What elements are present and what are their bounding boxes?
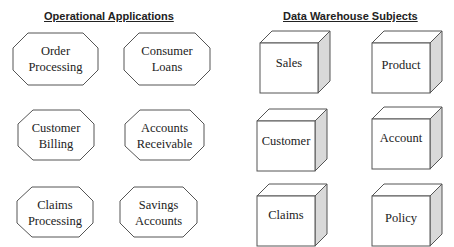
cube-product: Product bbox=[372, 31, 442, 93]
octagon-label-line2: Billing bbox=[39, 137, 74, 151]
octagon-label-line1: Savings bbox=[139, 198, 179, 212]
cube-label: Sales bbox=[276, 56, 303, 70]
octagon-label-line2: Processing bbox=[28, 60, 83, 74]
octagon-customer-billing: Customer Billing bbox=[18, 110, 94, 160]
octagon-label-line1: Claims bbox=[37, 198, 73, 212]
octagon-accounts-receivable: Accounts Receivable bbox=[125, 110, 204, 160]
octagon-label-line1: Customer bbox=[32, 121, 81, 135]
octagon-order-processing: Order Processing bbox=[13, 33, 98, 85]
cube-label: Account bbox=[380, 131, 423, 145]
cube-customer: Customer bbox=[257, 109, 327, 171]
octagon-label-line2: Accounts bbox=[135, 214, 182, 228]
octagon-label-line2: Loans bbox=[152, 60, 183, 74]
cube-claims: Claims bbox=[257, 184, 327, 246]
octagon-claims-processing: Claims Processing bbox=[17, 187, 93, 237]
octagon-savings-accounts: Savings Accounts bbox=[120, 187, 197, 237]
octagon-label-line1: Accounts bbox=[141, 121, 188, 135]
cube-label: Claims bbox=[268, 208, 304, 222]
cube-account: Account bbox=[372, 107, 442, 169]
cube-policy: Policy bbox=[372, 184, 442, 246]
cube-label: Policy bbox=[385, 211, 418, 225]
cube-sales: Sales bbox=[260, 31, 330, 93]
octagon-label-line1: Consumer bbox=[141, 44, 193, 58]
octagon-consumer-loans: Consumer Loans bbox=[124, 33, 210, 85]
octagon-label-line2: Receivable bbox=[137, 137, 193, 151]
cube-label: Customer bbox=[262, 134, 311, 148]
octagon-label-line1: Order bbox=[41, 44, 71, 58]
diagram-canvas: Order Processing Consumer Loans Customer… bbox=[0, 0, 454, 247]
octagon-label-line2: Processing bbox=[28, 214, 83, 228]
cube-label: Product bbox=[382, 58, 421, 72]
